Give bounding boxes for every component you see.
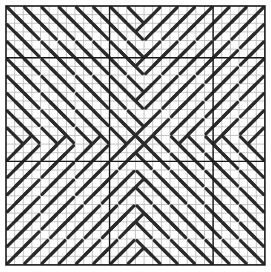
needlepoint-chart [0,0,271,272]
